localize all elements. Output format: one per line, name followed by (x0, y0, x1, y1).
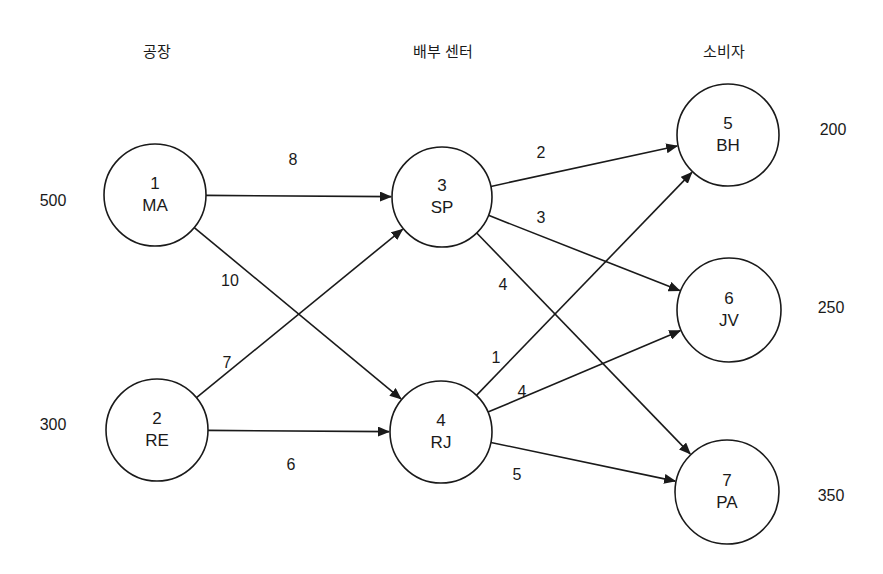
column-header-consumers: 소비자 (703, 43, 745, 61)
column-header-plants: 공장 (143, 43, 171, 61)
node-name: BH (716, 135, 740, 157)
node-number: 3 (431, 175, 454, 197)
edge-cost-4-6: 4 (518, 383, 527, 401)
node-label-2: 2RE (145, 408, 169, 452)
node-label-3: 3SP (431, 175, 454, 219)
edge-3-7 (477, 233, 690, 454)
quantity-node-6: 250 (818, 299, 845, 317)
edge-cost-2-4: 6 (287, 456, 296, 474)
edge-4-5 (476, 172, 691, 395)
node-name: RE (145, 430, 169, 452)
node-number: 4 (431, 410, 452, 432)
edge-1-4 (194, 228, 401, 399)
node-name: PA (716, 492, 737, 514)
edge-3-5 (491, 146, 677, 186)
edge-cost-4-5: 1 (492, 349, 501, 367)
edge-cost-3-7: 4 (499, 276, 508, 294)
node-number: 5 (716, 113, 740, 135)
node-label-1: 1MA (142, 173, 168, 217)
edge-1-3 (206, 195, 391, 196)
quantity-node-7: 350 (818, 487, 845, 505)
edge-3-6 (489, 215, 680, 290)
nodes-layer (104, 84, 781, 544)
node-name: SP (431, 197, 454, 219)
node-number: 2 (145, 408, 169, 430)
edge-2-4 (208, 430, 389, 431)
quantity-node-5: 200 (820, 121, 847, 139)
node-label-4: 4RJ (431, 410, 452, 454)
node-number: 1 (142, 173, 168, 195)
node-number: 6 (719, 288, 739, 310)
edge-cost-3-6: 3 (537, 209, 546, 227)
edge-cost-4-7: 5 (513, 466, 522, 484)
node-name: JV (719, 310, 739, 332)
node-number: 7 (716, 470, 737, 492)
node-name: MA (142, 195, 168, 217)
node-name: RJ (431, 432, 452, 454)
edge-cost-1-4: 10 (221, 272, 239, 290)
node-label-5: 5BH (716, 113, 740, 157)
edge-cost-1-3: 8 (289, 151, 298, 169)
node-label-6: 6JV (719, 288, 739, 332)
network-graph (0, 0, 883, 574)
quantity-node-1: 500 (40, 192, 67, 210)
quantity-node-2: 300 (40, 416, 67, 434)
column-header-distribution: 배부 센터 (413, 43, 473, 61)
node-label-7: 7PA (716, 470, 737, 514)
edge-cost-2-3: 7 (223, 354, 232, 372)
edge-cost-3-5: 2 (537, 144, 546, 162)
